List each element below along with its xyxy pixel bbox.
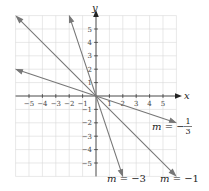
label-m-neg-one: m = −1: [160, 173, 199, 184]
x-axis-label: x: [184, 90, 190, 101]
y-tick-label: −4: [82, 146, 93, 154]
x-tick-labels: −5 −4 −3 −2 −1 1 2 3 4 5: [24, 100, 165, 108]
y-tick-labels: 5 4 3 2 1 −1 −2 −3 −4 −5: [82, 26, 93, 168]
y-tick-label: −1: [82, 106, 92, 114]
x-tick-label: −3: [51, 100, 61, 108]
label-m-neg-three: m = −3: [107, 173, 146, 184]
equals-minus: = −: [161, 121, 184, 132]
y-tick-label: 3: [88, 52, 92, 60]
x-axis-arrow-icon: [175, 93, 182, 99]
x-tick-label: 3: [134, 100, 138, 108]
x-tick-label: −4: [37, 100, 48, 108]
x-tick-label: −2: [64, 100, 74, 108]
svg-text:m = −: m = −: [152, 121, 185, 132]
fraction-denominator: 3: [185, 127, 190, 136]
m-symbol: m: [152, 121, 161, 132]
m-symbol: m: [160, 173, 169, 184]
axes: [16, 14, 178, 176]
y-tick-label: −5: [82, 160, 92, 168]
y-tick-label: 5: [88, 26, 92, 34]
x-tick-label: 5: [161, 100, 165, 108]
y-tick-label: 4: [88, 39, 93, 47]
slope-value: = −3: [116, 173, 145, 184]
y-axis-label: y: [91, 2, 98, 13]
x-tick-label: 4: [147, 100, 152, 108]
arrowhead-icon: [70, 16, 74, 22]
slope-value: = −1: [169, 173, 198, 184]
x-tick-label: −5: [24, 100, 34, 108]
arrowhead-icon: [16, 70, 22, 74]
fraction-numerator: 1: [185, 117, 190, 126]
m-symbol: m: [107, 173, 116, 184]
coordinate-plane: −5 −4 −3 −2 −1 1 2 3 4 5 5 4 3 2 1 −1 −2…: [0, 0, 209, 191]
y-tick-label: −2: [82, 119, 92, 127]
y-tick-label: −3: [82, 133, 92, 141]
